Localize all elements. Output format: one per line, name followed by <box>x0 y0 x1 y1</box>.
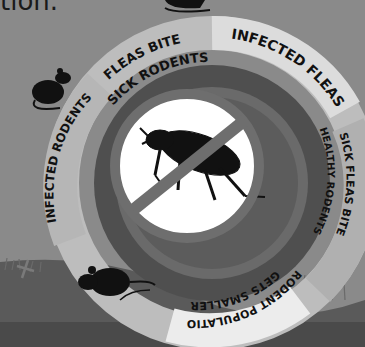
cycle-graphic: FLEAS BITE SICK RODENTS INFECTED FLEAS S… <box>0 0 365 347</box>
rodent-icon-top-left <box>32 68 71 109</box>
rodent-icon-top-partial <box>165 0 210 12</box>
plague-cycle-diagram: tion. <box>0 0 365 347</box>
